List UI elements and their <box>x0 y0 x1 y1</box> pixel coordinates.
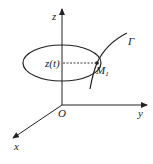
height-label: z(t) <box>44 57 60 70</box>
x-axis-label: x <box>13 140 19 152</box>
curve-label: Γ <box>127 35 135 47</box>
origin-label: O <box>58 107 66 119</box>
z-axis-label: z <box>51 10 57 22</box>
curve-gamma <box>90 33 127 89</box>
y-axis-label: y <box>137 107 143 119</box>
point-label: M1 <box>95 64 109 78</box>
diagram-canvas: z y x O Γ z(t) M1 <box>0 0 153 164</box>
x-axis <box>13 105 62 138</box>
